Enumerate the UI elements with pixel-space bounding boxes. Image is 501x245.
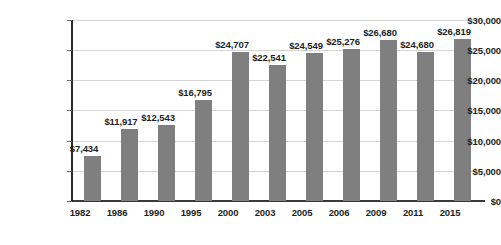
bar-1986: [121, 129, 138, 201]
bar-value-2011: $24,680: [393, 40, 441, 50]
y-axis-label-30000: $30,000: [437, 16, 501, 26]
bar-chart: $30,000 $25,000 $20,000 $15,000 $10,000 …: [0, 0, 501, 245]
gridline-25000: [72, 50, 485, 51]
bar-value-2003: $22,541: [245, 53, 293, 63]
bar-value-2015: $26,819: [430, 27, 478, 37]
x-axis-label-1982: 1982: [60, 208, 100, 218]
x-axis-label-2003: 2003: [245, 208, 285, 218]
y-tick-15000: [67, 110, 72, 111]
y-axis-label-0: $0: [437, 197, 501, 207]
bar-value-2000: $24,707: [208, 40, 256, 50]
bar-2005: [306, 53, 323, 201]
y-axis-label-15000: $15,000: [437, 106, 501, 116]
x-axis-label-2005: 2005: [282, 208, 322, 218]
x-axis-label-2011: 2011: [393, 208, 433, 218]
bar-value-1995: $16,795: [171, 88, 219, 98]
bar-value-1982: $7,434: [60, 144, 108, 154]
gridline-30000: [72, 20, 485, 21]
bar-2000: [232, 52, 249, 201]
bar-2015: [454, 39, 471, 201]
x-axis-label-2015: 2015: [430, 208, 470, 218]
bar-1990: [158, 125, 175, 201]
x-axis-label-2009: 2009: [356, 208, 396, 218]
y-tick-10000: [67, 141, 72, 142]
bar-2003: [269, 65, 286, 201]
y-axis-label-10000: $10,000: [437, 137, 501, 147]
bar-2009: [380, 40, 397, 201]
y-axis-label-5000: $5,000: [437, 167, 501, 177]
bar-value-1990: $12,543: [134, 113, 182, 123]
y-axis-line: [71, 20, 73, 202]
y-tick-30000: [67, 20, 72, 21]
bar-value-2009: $26,680: [356, 28, 404, 38]
x-axis-label-2000: 2000: [208, 208, 248, 218]
bar-2011: [417, 52, 434, 201]
bar-1995: [195, 100, 212, 201]
bar-1982: [84, 156, 101, 201]
y-tick-5000: [67, 171, 72, 172]
y-axis-label-25000: $25,000: [437, 46, 501, 56]
y-axis-label-20000: $20,000: [437, 76, 501, 86]
bar-value-2006: $25,276: [319, 37, 367, 47]
y-tick-20000: [67, 80, 72, 81]
y-tick-25000: [67, 50, 72, 51]
x-axis-label-1990: 1990: [134, 208, 174, 218]
x-axis-label-2006: 2006: [319, 208, 359, 218]
x-axis-label-1986: 1986: [97, 208, 137, 218]
bar-2006: [343, 49, 360, 201]
x-axis-label-1995: 1995: [171, 208, 211, 218]
y-tick-0: [67, 201, 72, 202]
